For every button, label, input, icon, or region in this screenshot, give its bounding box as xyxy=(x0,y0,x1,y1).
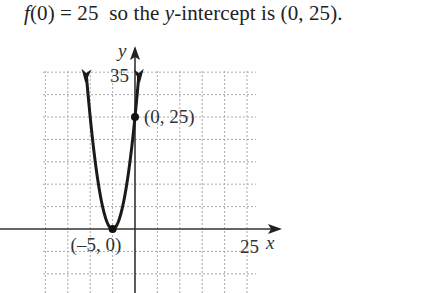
x-tick-label: 25 xyxy=(240,236,259,257)
x-axis-label: x xyxy=(265,232,275,253)
point-marker xyxy=(131,113,139,121)
parabola-chart: (–5, 0)(0, 25)3525xy xyxy=(0,0,435,293)
point-label: (–5, 0) xyxy=(71,234,122,256)
point-label: (0, 25) xyxy=(144,106,195,128)
y-tick-label: 35 xyxy=(110,65,129,86)
grid xyxy=(43,71,256,293)
y-axis-label: y xyxy=(116,40,127,61)
point-marker xyxy=(109,225,117,233)
